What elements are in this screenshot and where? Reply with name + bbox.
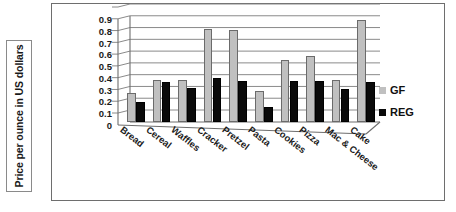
bar-gf — [306, 56, 315, 122]
bar-group — [303, 16, 329, 122]
bar-group — [329, 16, 355, 122]
bar-reg — [264, 107, 273, 122]
legend-label: GF — [390, 85, 405, 96]
bar-gf — [357, 20, 366, 122]
bar-reg — [341, 89, 350, 122]
bar-gf — [127, 93, 136, 122]
gf-swatch-icon — [379, 87, 386, 94]
bar-group — [252, 16, 278, 122]
y-axis-tick-0-8: 0.8 — [99, 25, 112, 36]
y-axis-tick-0-4: 0.4 — [99, 72, 112, 83]
bar-reg — [366, 82, 375, 122]
y-axis-tick-0-9: 0.9 — [99, 14, 112, 25]
bar-reg — [290, 81, 299, 122]
grid-depth-0.9 — [118, 4, 130, 7]
y-axis-title-box: Price per ounce in US dollars — [6, 40, 32, 192]
y-axis-tick-0-5: 0.5 — [99, 61, 112, 72]
reg-swatch-icon — [379, 109, 386, 116]
chart-legend: GFREG — [379, 84, 437, 128]
page-caption-strip — [0, 203, 456, 212]
legend-label: REG — [390, 107, 414, 118]
x-axis-label-cereal: Cereal — [144, 124, 174, 151]
bar-gf — [281, 60, 290, 122]
y-axis-tick-0-7: 0.7 — [99, 37, 112, 48]
y-axis-tick-0-6: 0.6 — [99, 49, 112, 60]
bar-reg — [162, 82, 171, 122]
plot-area: 00.10.20.30.40.50.60.70.80.9 BreadCereal… — [90, 16, 380, 134]
bar-gf — [178, 80, 187, 122]
bar-group — [226, 16, 252, 122]
bar-reg — [238, 81, 247, 122]
bar-reg — [136, 102, 145, 122]
bar-gf — [153, 80, 162, 122]
x-axis-label-bread: Bread — [118, 124, 146, 149]
chart-frame: 00.10.20.30.40.50.60.70.80.9 BreadCereal… — [51, 3, 445, 201]
bar-gf — [255, 91, 264, 122]
y-axis-tick-labels: 00.10.20.30.40.50.60.70.80.9 — [90, 16, 112, 134]
bar-group — [201, 16, 227, 122]
bar-group — [124, 16, 150, 122]
legend-item-gf: GF — [379, 84, 437, 96]
bar-gf — [332, 80, 341, 122]
bar-reg — [187, 88, 196, 122]
bar-group — [278, 16, 304, 122]
y-axis-tick-0-3: 0.3 — [99, 84, 112, 95]
y-axis-tick-0-2: 0.2 — [99, 96, 112, 107]
bar-gf — [204, 29, 213, 122]
x-axis-category-labels: BreadCerealWafflesCrackerPretzelPastaCoo… — [124, 124, 424, 184]
bar-reg — [213, 78, 222, 122]
bar-group — [354, 16, 380, 122]
y-axis-title-label: Price per ounce in US dollars — [13, 45, 25, 188]
bar-reg — [315, 81, 324, 122]
bars-layer — [124, 16, 380, 122]
bar-group — [150, 16, 176, 122]
bar-gf — [229, 30, 238, 122]
y-axis-tick-0-1: 0.1 — [99, 108, 112, 119]
legend-item-reg: REG — [379, 106, 437, 118]
bar-group — [175, 16, 201, 122]
